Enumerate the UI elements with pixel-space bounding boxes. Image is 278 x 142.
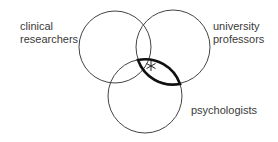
label-line: university: [213, 20, 264, 33]
label-university-professors: university professors: [213, 20, 264, 46]
venn-diagram: clinical researchers university professo…: [0, 0, 278, 142]
label-psychologists: psychologists: [191, 104, 257, 117]
label-clinical-researchers: clinical researchers: [20, 20, 78, 46]
label-line: clinical: [20, 20, 78, 33]
circle-clinical-researchers: [79, 11, 151, 83]
label-line: professors: [213, 33, 264, 46]
label-line: psychologists: [191, 104, 257, 117]
label-line: researchers: [20, 33, 78, 46]
highlighted-intersection: [138, 59, 180, 84]
